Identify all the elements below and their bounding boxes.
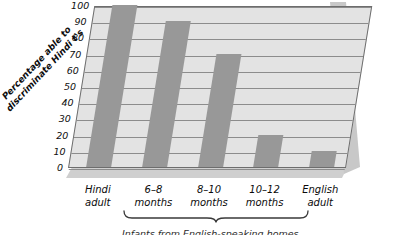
x-axis-label-4-line0: English [280, 184, 360, 197]
y-axis-tick-100: 100 [65, 0, 89, 11]
bar-1 [142, 21, 191, 167]
y-axis-tick-60: 60 [55, 65, 79, 76]
bar-chart: Percentage able to discriminate Hindi t'… [0, 0, 407, 235]
bar-4 [309, 151, 337, 167]
y-axis-tick-0: 0 [39, 162, 63, 173]
bar-3 [253, 135, 283, 167]
y-axis-tick-50: 50 [52, 81, 76, 92]
y-axis-tick-30: 30 [47, 113, 71, 124]
plot-area [68, 6, 372, 168]
bar-2 [198, 54, 241, 167]
y-axis-tick-70: 70 [57, 49, 81, 60]
y-axis-tick-20: 20 [44, 130, 68, 141]
x-axis-label-4-line1: adult [280, 197, 360, 210]
gridline [69, 169, 345, 170]
y-axis-tick-90: 90 [63, 16, 87, 27]
bar-0 [86, 5, 137, 167]
x-axis-label-4: Englishadult [280, 184, 360, 209]
infant-group-brace-icon [123, 210, 309, 223]
y-axis-tick-80: 80 [60, 32, 84, 43]
figure-caption: Infants from English-speaking homes [122, 228, 332, 235]
y-axis-tick-10: 10 [42, 146, 66, 157]
y-axis-tick-40: 40 [49, 97, 73, 108]
